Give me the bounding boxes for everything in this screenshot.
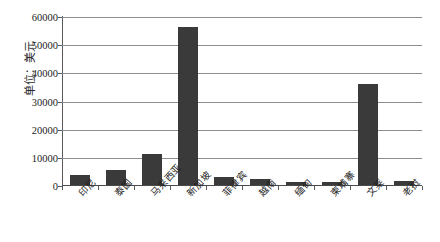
y-axis-tick-label: 20000 [6,124,58,135]
y-axis-tick-labels: 0100002000030000400005000060000 [6,0,58,242]
y-axis-tick-label: 40000 [6,68,58,79]
y-axis-tick-label: 0 [6,181,58,192]
y-axis-tick-label: 60000 [6,12,58,23]
plot-area [62,17,422,186]
bar [358,84,378,185]
bar-chart: 单位：美元 0100002000030000400005000060000 印尼… [0,0,440,242]
y-axis-tick-label: 50000 [6,40,58,51]
x-axis-tick-mark [422,186,423,190]
gridline [62,45,422,46]
gridline [62,17,422,18]
y-axis-tick-label: 10000 [6,152,58,163]
y-axis-tick-label: 30000 [6,96,58,107]
bar [178,27,198,185]
x-axis-tick-labels: 印尼泰国马来西亚新加坡菲律宾越南缅甸柬埔寨文莱老挝 [62,188,422,242]
gridline [62,73,422,74]
